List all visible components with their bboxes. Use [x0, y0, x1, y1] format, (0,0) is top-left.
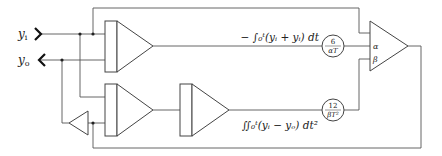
alpha-gain-numerator: 6	[331, 38, 336, 46]
junction-dot	[78, 32, 81, 35]
integrator-2	[105, 84, 153, 136]
wires	[40, 8, 421, 148]
junction-dot	[91, 32, 94, 35]
input-port-label: yi	[17, 27, 28, 42]
junction-dot	[60, 58, 63, 61]
input-port-arrow-icon	[35, 28, 41, 40]
coefficient-alpha: 6 αT	[322, 35, 344, 57]
beta-gain-numerator: 12	[329, 102, 338, 110]
coefficient-beta: 12 βT²	[322, 99, 344, 121]
integrator-1	[105, 21, 153, 72]
output-port-label: yo	[17, 53, 30, 68]
integrator-3	[180, 84, 229, 136]
alpha-input-label: α	[373, 42, 379, 51]
bottom-integral-formula: ∬₀ᵗ(yᵢ − yₒ) dt²	[242, 119, 318, 131]
analog-computer-diagram: yi yo α β 6 αT 12 βT² − ∫₀ᵗ(yᵢ + yᵢ) d	[0, 0, 442, 156]
inverter	[69, 111, 88, 135]
top-integral-formula: − ∫₀ᵗ(yᵢ + yᵢ) dt	[241, 31, 320, 43]
beta-gain-denominator: βT²	[326, 111, 339, 119]
alpha-gain-denominator: αT	[328, 47, 339, 55]
junction-dot	[91, 121, 94, 124]
beta-input-label: β	[372, 55, 378, 64]
summing-amplifier: α β	[370, 21, 408, 71]
junction-dots	[60, 32, 94, 124]
